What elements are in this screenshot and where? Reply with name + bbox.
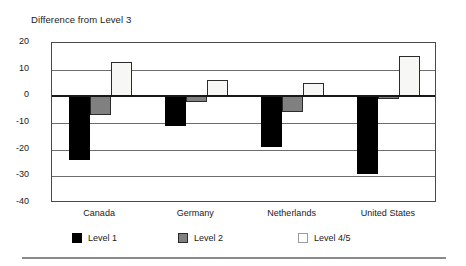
y-tick-label--20: -20 xyxy=(16,144,29,153)
bar-netherlands-level-4-5 xyxy=(303,83,324,96)
legend-label: Level 4/5 xyxy=(314,233,351,243)
bar-germany-level-4-5 xyxy=(207,80,228,96)
x-tick-label-germany: Germany xyxy=(147,208,243,218)
bar-netherlands-level-1 xyxy=(261,96,282,147)
legend-item-level-4-5: Level 4/5 xyxy=(298,233,351,243)
bottom-divider xyxy=(22,257,446,259)
x-tick-label-united-states: United States xyxy=(340,208,436,218)
y-tick-label--10: -10 xyxy=(16,117,29,126)
bar-united-states-level-1 xyxy=(357,96,378,173)
bar-series-container xyxy=(52,43,435,201)
bar-germany-level-1 xyxy=(165,96,186,125)
x-tick-label-netherlands: Netherlands xyxy=(244,208,340,218)
bar-netherlands-level-2 xyxy=(282,96,303,112)
y-tick-label-0: 0 xyxy=(24,90,29,99)
legend-swatch-level-1 xyxy=(72,233,82,243)
x-tick-label-canada: Canada xyxy=(51,208,147,218)
legend-swatch-level-4-5 xyxy=(298,233,308,243)
legend-label: Level 2 xyxy=(194,233,223,243)
y-tick-label--40: -40 xyxy=(16,197,29,206)
legend-swatch-level-2 xyxy=(178,233,188,243)
legend-item-level-2: Level 2 xyxy=(178,233,223,243)
y-tick-label-20: 20 xyxy=(19,37,29,46)
bar-group-germany xyxy=(148,43,244,201)
plot-area xyxy=(51,42,436,202)
bar-united-states-level-4-5 xyxy=(399,56,420,96)
y-tick-label-10: 10 xyxy=(19,64,29,73)
chart-legend: Level 1Level 2Level 4/5 xyxy=(0,233,466,247)
bar-canada-level-2 xyxy=(90,96,111,115)
bar-canada-level-4-5 xyxy=(111,62,132,97)
bar-canada-level-1 xyxy=(69,96,90,160)
zero-line xyxy=(52,95,435,97)
chart-title: Difference from Level 3 xyxy=(31,14,131,25)
bar-group-united-states xyxy=(341,43,437,201)
chart-figure: Difference from Level 3 20100-10-20-30-4… xyxy=(0,0,466,266)
y-tick-label--30: -30 xyxy=(16,170,29,179)
legend-item-level-1: Level 1 xyxy=(72,233,117,243)
bar-group-netherlands xyxy=(245,43,341,201)
legend-label: Level 1 xyxy=(88,233,117,243)
bar-group-canada xyxy=(52,43,148,201)
